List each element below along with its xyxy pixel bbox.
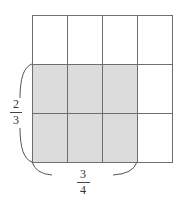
fraction-denominator: 4 (80, 183, 86, 197)
fraction-numerator: 2 (13, 97, 19, 111)
vertical-fraction-label: 2 3 (9, 98, 23, 127)
fraction-denominator: 3 (13, 113, 19, 127)
horizontal-fraction-label: 3 4 (75, 168, 91, 197)
fraction-numerator: 3 (80, 167, 86, 181)
